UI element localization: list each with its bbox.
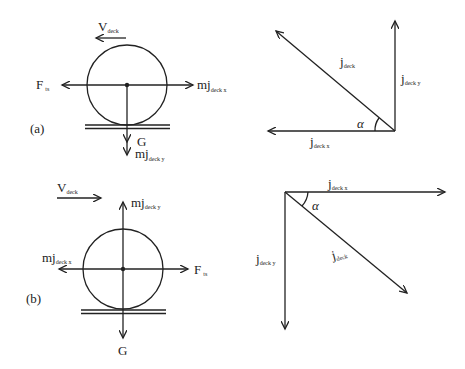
panel-b-vectors: α jdeck x jdeck y jdeck xyxy=(255,176,445,329)
j-resultant-label: jdeck xyxy=(329,245,348,264)
jy-label: jdeck y xyxy=(400,71,420,86)
gravity-label: G xyxy=(118,343,127,358)
panel-b-free-body: Vdeck mjdeck y mjdeck x Fts G (b) xyxy=(26,180,208,358)
inertia-y-label: mjdeck y xyxy=(131,195,161,210)
angle-alpha-label: α xyxy=(357,116,365,131)
inertia-x-label: mjdeck x xyxy=(197,77,227,93)
inertia-y-label: mjdeck y xyxy=(135,146,165,162)
angle-alpha-label: α xyxy=(312,198,320,213)
panel-a-free-body: Vdeck Fts mjdeck x G mjdeck y (a) xyxy=(30,19,227,162)
j-resultant-label: jdeck xyxy=(339,54,355,69)
jy-label: jdeck y xyxy=(255,251,275,266)
force-f-label: Fts xyxy=(194,262,208,277)
jx-label: jdeck x xyxy=(309,134,329,149)
force-diagram: Vdeck Fts mjdeck x G mjdeck y (a) α jdec… xyxy=(0,0,465,369)
velocity-label: Vdeck xyxy=(98,19,119,34)
jx-label: jdeck x xyxy=(327,176,347,191)
j-resultant-vector xyxy=(285,192,407,293)
angle-arc xyxy=(375,118,379,131)
panel-b-label: (b) xyxy=(26,291,41,306)
force-f-label: Fts xyxy=(36,77,50,92)
j-resultant-vector xyxy=(276,31,395,131)
velocity-label: Vdeck xyxy=(57,180,78,195)
angle-arc xyxy=(302,192,308,206)
panel-a-vectors: α jdeck jdeck y jdeck x xyxy=(268,21,420,149)
panel-a-label: (a) xyxy=(30,121,44,136)
inertia-x-label: mjdeck x xyxy=(42,250,72,265)
